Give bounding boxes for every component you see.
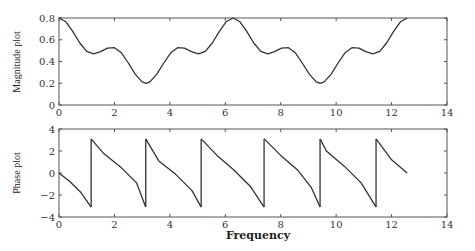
x-tick-label: 12 — [385, 107, 398, 118]
y-tick-label: 0.4 — [39, 56, 55, 67]
y-tick-label: −4 — [40, 212, 55, 223]
y-tick-label: 4 — [49, 124, 55, 135]
x-tick-label: 4 — [167, 219, 173, 230]
x-tick-label: 12 — [385, 219, 398, 230]
x-tick-label: 4 — [167, 107, 173, 118]
x-tick-label: 2 — [111, 107, 117, 118]
phase-axes: 02468101214−4−2024 — [40, 124, 453, 231]
data-line — [201, 139, 264, 207]
data-line — [376, 139, 407, 173]
y-tick-label: 0 — [49, 100, 55, 111]
x-tick-label: 8 — [278, 107, 284, 118]
phase-ylabel: Phase plot — [11, 152, 22, 194]
data-line — [59, 173, 91, 207]
x-tick-label: 2 — [111, 219, 117, 230]
x-tick-label: 10 — [330, 107, 343, 118]
y-tick-label: 0.6 — [39, 34, 55, 45]
y-tick-label: −2 — [40, 190, 55, 201]
y-tick-label: 0 — [49, 168, 55, 179]
data-line — [91, 139, 146, 207]
data-line — [59, 18, 407, 83]
data-line — [264, 139, 320, 207]
axes-frame — [59, 129, 447, 217]
magnitude-axes: 0246810121400.20.40.60.8 — [39, 13, 453, 119]
magnitude-ylabel: Magnitude plot — [11, 31, 22, 93]
axes-frame — [59, 18, 447, 105]
y-tick-label: 0.2 — [39, 78, 55, 89]
x-tick-label: 14 — [441, 107, 454, 118]
y-tick-label: 2 — [49, 146, 55, 157]
y-tick-label: 0.8 — [39, 13, 55, 24]
x-tick-label: 0 — [56, 107, 62, 118]
x-tick-label: 6 — [222, 107, 228, 118]
data-line — [320, 139, 376, 207]
figure: 0246810121400.20.40.60.8 02468101214−4−2… — [0, 0, 475, 251]
x-tick-label: 10 — [330, 219, 343, 230]
frequency-xlabel: Frequency — [226, 229, 291, 242]
x-tick-label: 14 — [441, 219, 454, 230]
x-tick-label: 0 — [56, 219, 62, 230]
data-line — [146, 139, 202, 207]
